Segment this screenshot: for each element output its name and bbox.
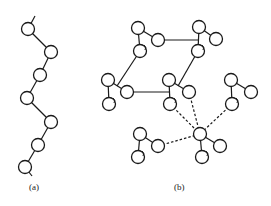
group-atom-bottom-icon — [103, 98, 116, 111]
group-atom-bottom-icon — [196, 151, 209, 164]
group-atom-right-icon — [152, 34, 165, 47]
chain-atom-icon — [45, 46, 58, 59]
panel-a-label: (a) — [29, 182, 39, 192]
group-atom-top-icon — [225, 74, 238, 87]
group-atom-bottom-icon — [226, 98, 239, 111]
chain-atom-icon — [32, 139, 45, 152]
group-atom-top-icon — [193, 21, 206, 34]
chain-atom-icon — [45, 116, 58, 129]
group-atom-bottom-icon — [164, 98, 177, 111]
chain-atom-icon — [22, 23, 35, 36]
group-atom-right-icon — [214, 140, 227, 153]
panel-b-label: (b) — [174, 182, 185, 192]
chain-atom-icon — [21, 92, 34, 105]
chain-atom-icon — [19, 161, 32, 174]
group-atom-right-icon — [245, 86, 258, 99]
group-atom-top-icon — [132, 22, 145, 35]
chain-atom-icon — [34, 69, 47, 82]
group-atom-top-icon — [102, 74, 115, 87]
group-atom-bottom-icon — [134, 45, 147, 58]
group-atom-right-icon — [121, 86, 134, 99]
figure-canvas — [0, 0, 271, 206]
group-atom-top-icon — [163, 74, 176, 87]
group-atom-right-icon — [183, 86, 196, 99]
group-atom-bottom-icon — [192, 45, 205, 58]
group-atom-top-icon — [194, 128, 207, 141]
group-atom-right-icon — [210, 33, 223, 46]
group-atom-top-icon — [134, 128, 147, 141]
group-atom-bottom-icon — [132, 151, 145, 164]
group-atom-right-icon — [152, 140, 165, 153]
